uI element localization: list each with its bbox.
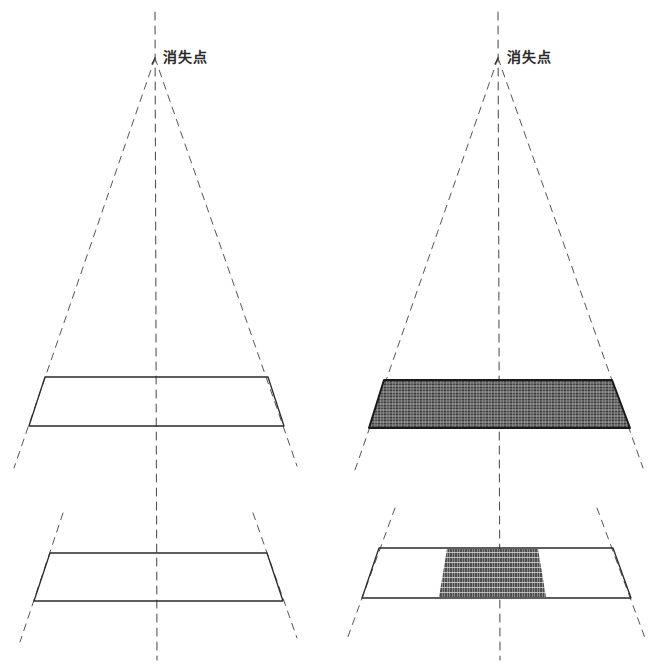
vanishing-point-label-left: 消失点: [163, 50, 208, 64]
convergence-line-upper-right-left: [155, 58, 297, 466]
perspective-diagram: [0, 0, 658, 667]
hatched-patch-right: [439, 549, 546, 597]
lower-trapezoid-left: [34, 553, 283, 601]
upper-trapezoid-hatched-right: [369, 380, 630, 428]
center-axis-left: [155, 12, 157, 660]
vanishing-point-label-right: 消失点: [507, 50, 552, 64]
convergence-line-lower-right-right: [597, 508, 645, 638]
